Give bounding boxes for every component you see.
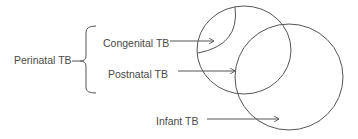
- infant-tb-label: Infant TB: [156, 116, 198, 127]
- perinatal-tb-label: Perinatal TB: [14, 55, 72, 66]
- perinatal-circle: [197, 6, 291, 94]
- postnatal-tb-label: Postnatal TB: [108, 69, 168, 80]
- curly-brace: [72, 26, 96, 93]
- congenital-tb-label: Congenital TB: [103, 38, 169, 49]
- infant-circle: [235, 24, 343, 130]
